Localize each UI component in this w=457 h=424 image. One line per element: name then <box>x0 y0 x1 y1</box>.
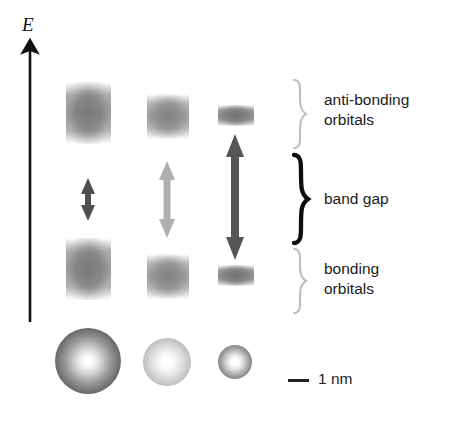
bonding-band-large <box>66 238 111 300</box>
label-bonding-orbitals: bonding orbitals <box>324 259 379 298</box>
antibonding-band-medium <box>147 94 189 139</box>
brace-antibonding <box>294 80 306 148</box>
energy-axis-label: E <box>22 14 34 36</box>
scale-bar-label: 1 nm <box>318 370 352 388</box>
bonding-band-small <box>218 265 254 286</box>
nanoparticle-sphere-large <box>55 328 121 394</box>
label-band-gap: band gap <box>324 189 389 209</box>
scale-bar-line <box>288 379 309 382</box>
antibonding-band-large <box>66 82 111 144</box>
brace-bandgap <box>294 155 308 243</box>
quantum-confinement-diagram: E <box>0 0 457 424</box>
bonding-band-medium <box>147 254 189 299</box>
label-antibonding-orbitals: anti-bonding orbitals <box>324 90 409 129</box>
brace-bonding <box>294 249 306 313</box>
nanoparticle-sphere-small <box>218 345 252 379</box>
band-gap-arrow-medium <box>159 161 175 238</box>
antibonding-band-small <box>218 105 254 126</box>
band-gap-arrow-large <box>81 178 95 221</box>
band-gap-arrow-small <box>226 134 244 260</box>
nanoparticle-sphere-medium <box>143 338 191 386</box>
